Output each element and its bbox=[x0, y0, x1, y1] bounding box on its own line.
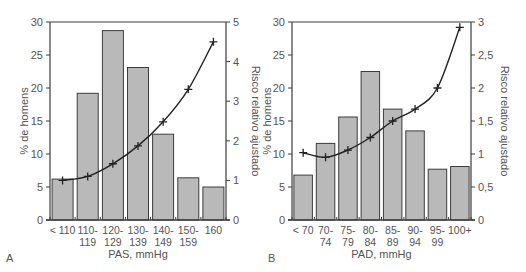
x-tick-label: 139 bbox=[129, 236, 147, 248]
x-tick-label: < 70 bbox=[293, 224, 314, 236]
x-tick-label: 79 bbox=[342, 236, 354, 248]
y2-tick-label: 1,5 bbox=[478, 115, 493, 127]
bar-9599 bbox=[428, 169, 447, 220]
y2-tick-label: 2,5 bbox=[478, 49, 493, 61]
y-tick-label: 25 bbox=[273, 49, 285, 61]
bar-110119 bbox=[77, 93, 98, 220]
plus-marker-icon bbox=[433, 84, 441, 92]
bar-8084 bbox=[361, 72, 380, 221]
y2-tick-label: 1 bbox=[233, 174, 239, 186]
y-tick-label: 10 bbox=[31, 148, 43, 160]
bar-150159 bbox=[178, 178, 199, 220]
chart-panel-a: 051015202530012345< 110110-119120-129130… bbox=[6, 16, 262, 264]
x-tick-label: 159 bbox=[180, 236, 198, 248]
x-tick-label: 120- bbox=[102, 224, 124, 236]
y2-tick-label: 0 bbox=[233, 214, 239, 226]
y-tick-label: 0 bbox=[279, 214, 285, 226]
y-tick-label: 20 bbox=[31, 82, 43, 94]
y2-tick-label: 1 bbox=[478, 148, 484, 160]
y-tick-label: 0 bbox=[37, 214, 43, 226]
x-tick-label: 94 bbox=[409, 236, 421, 248]
y2-tick-label: 3 bbox=[478, 16, 484, 28]
y-tick-label: 15 bbox=[31, 115, 43, 127]
y-tick-label: 5 bbox=[279, 181, 285, 193]
y-tick-label: 15 bbox=[273, 115, 285, 127]
bar-7579 bbox=[339, 117, 358, 220]
y2-tick-label: 3 bbox=[233, 95, 239, 107]
y2-tick-label: 2 bbox=[233, 135, 239, 147]
y2-tick-label: 5 bbox=[233, 16, 239, 28]
x-tick-label: 110- bbox=[78, 224, 99, 236]
y2-axis-title: Risco relativo ajustado bbox=[499, 66, 511, 177]
y2-tick-label: 4 bbox=[233, 56, 239, 68]
x-tick-label: 130- bbox=[127, 224, 149, 236]
bar-120129 bbox=[102, 31, 123, 220]
x-tick-label: 150- bbox=[178, 224, 200, 236]
x-tick-label: 119 bbox=[79, 236, 96, 248]
plus-marker-icon bbox=[209, 38, 217, 46]
y-tick-label: 30 bbox=[273, 16, 285, 28]
panel-label: B bbox=[268, 252, 275, 264]
x-tick-label: 140- bbox=[153, 224, 175, 236]
x-tick-label: 90- bbox=[407, 224, 423, 236]
x-tick-label: 84 bbox=[364, 236, 376, 248]
y2-tick-label: 0,5 bbox=[478, 181, 493, 193]
y-tick-label: 10 bbox=[273, 148, 285, 160]
x-tick-label: 160 bbox=[205, 224, 223, 236]
chart-panel-b: 05101520253000,511,522,53< 7070-7475-798… bbox=[261, 16, 511, 264]
y2-tick-label: 0 bbox=[478, 214, 484, 226]
x-tick-label: 85- bbox=[385, 224, 401, 236]
y-tick-label: 25 bbox=[31, 49, 43, 61]
x-tick-label: 70- bbox=[318, 224, 334, 236]
x-tick-label: 129 bbox=[104, 236, 122, 248]
panel-label: A bbox=[6, 252, 14, 264]
x-tick-label: 89 bbox=[387, 236, 399, 248]
y-axis-title: % de homens bbox=[261, 87, 273, 155]
x-tick-label: < 110 bbox=[50, 224, 76, 236]
y-tick-label: 5 bbox=[37, 181, 43, 193]
bar-100+ bbox=[451, 167, 470, 221]
risk-line bbox=[303, 27, 460, 157]
bar-140149 bbox=[153, 134, 174, 220]
plus-marker-icon bbox=[299, 149, 307, 157]
x-axis-title: PAD, mmHg bbox=[351, 248, 411, 260]
x-tick-label: 75- bbox=[340, 224, 356, 236]
y-tick-label: 20 bbox=[273, 82, 285, 94]
bar-160 bbox=[203, 187, 224, 220]
y2-tick-label: 2 bbox=[478, 82, 484, 94]
x-tick-label: 74 bbox=[320, 236, 332, 248]
bar-9094 bbox=[406, 131, 425, 220]
x-tick-label: 80- bbox=[363, 224, 379, 236]
x-tick-label: 100+ bbox=[448, 224, 472, 236]
x-tick-label: 95- bbox=[430, 224, 446, 236]
plus-marker-icon bbox=[184, 85, 192, 93]
y-axis-title: % de homens bbox=[18, 87, 30, 155]
bar-110 bbox=[52, 179, 73, 220]
x-tick-label: 149 bbox=[154, 236, 172, 248]
x-tick-label: 99 bbox=[432, 236, 444, 248]
x-axis-title: PAS, mmHg bbox=[108, 248, 168, 260]
chart-figure: 051015202530012345< 110110-119120-129130… bbox=[0, 0, 526, 272]
y-tick-label: 30 bbox=[31, 16, 43, 28]
plus-marker-icon bbox=[411, 105, 419, 113]
bar-70 bbox=[294, 175, 313, 220]
plus-marker-icon bbox=[456, 23, 464, 31]
